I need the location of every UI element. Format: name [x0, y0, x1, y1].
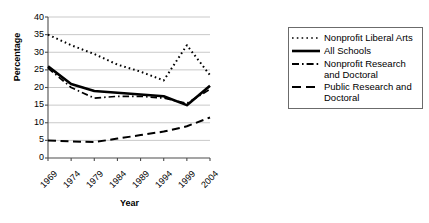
- chart-legend: Nonprofit Liberal Arts All Schools Nonpr…: [288, 27, 423, 109]
- data-series-group: [48, 35, 210, 143]
- legend-item-all-schools[interactable]: All Schools: [291, 45, 419, 57]
- legend-item-nonprofit-research-and-doctoral[interactable]: Nonprofit Research and Doctoral: [291, 58, 419, 80]
- dashed-line-swatch: [291, 81, 321, 93]
- series-line: [48, 117, 210, 142]
- legend-label: Nonprofit Research and Doctoral: [324, 58, 419, 80]
- legend-label: All Schools: [324, 45, 419, 56]
- solid-line-swatch: [291, 45, 321, 57]
- legend-item-public-research-and-doctoral[interactable]: Public Research and Doctoral: [291, 81, 419, 103]
- series-line: [48, 35, 210, 81]
- legend-label: Public Research and Doctoral: [324, 81, 419, 103]
- legend-item-nonprofit-liberal-arts[interactable]: Nonprofit Liberal Arts: [291, 32, 419, 44]
- axis-ticks: [45, 17, 210, 161]
- gridlines: [48, 17, 210, 140]
- dash-dot-line-swatch: [291, 58, 321, 70]
- line-chart-figure: Percentage Year 40 35 30 25 20 15 10 5 0…: [0, 0, 429, 223]
- legend-label: Nonprofit Liberal Arts: [324, 32, 419, 43]
- series-line: [48, 68, 210, 103]
- series-line: [48, 66, 210, 105]
- dotted-line-swatch: [291, 32, 321, 44]
